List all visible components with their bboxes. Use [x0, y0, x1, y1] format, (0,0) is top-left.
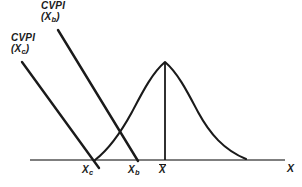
cvpi-xb-paren-close: ) — [56, 11, 60, 22]
tick-label-xb-base: X — [128, 164, 135, 175]
cvpi-normal-distribution-figure: CVPI (Xb) CVPI (Xc) Xc Xb X X — [0, 0, 302, 187]
tick-label-x-bar: X — [159, 164, 166, 176]
cvpi-xc-label: CVPI (Xc) — [11, 33, 35, 55]
cvpi-xb-label: CVPI (Xb) — [41, 1, 65, 23]
x-axis-label: X — [287, 163, 294, 174]
figure-canvas — [0, 0, 302, 187]
cvpi-xc-label-line2: (Xc) — [11, 44, 35, 56]
tick-label-xc: Xc — [82, 165, 93, 177]
tick-label-x-bar-base: X — [159, 164, 166, 176]
normal-density-curve — [95, 62, 246, 160]
tick-label-xc-subscript: c — [89, 168, 93, 177]
cvpi-xc-paren-open: (X — [11, 43, 21, 54]
tick-label-xc-base: X — [82, 164, 89, 175]
cvpi-xb-line — [58, 30, 138, 161]
cvpi-xc-paren-close: ) — [26, 43, 30, 54]
tick-label-xb-subscript: b — [135, 168, 140, 177]
cvpi-xb-label-line2: (Xb) — [41, 12, 65, 24]
cvpi-xb-paren-open: (X — [41, 11, 51, 22]
tick-label-xb: Xb — [128, 165, 140, 177]
